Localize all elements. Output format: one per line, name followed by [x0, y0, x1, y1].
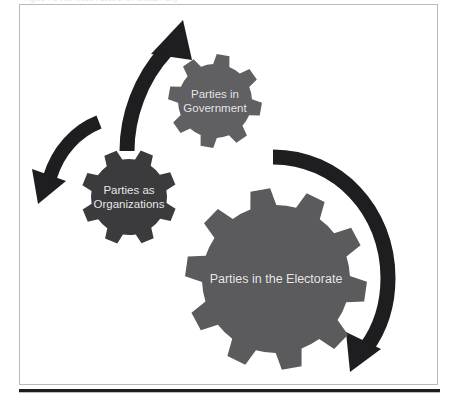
gears-svg [20, 5, 439, 386]
page-bottom-rule-shadow [19, 392, 440, 393]
diagram-stage: Parties in Government Parties as Organiz… [20, 5, 439, 386]
figure-page: Figure 7.1 The Three Faces of a Politica… [0, 0, 453, 406]
gear-parties-as-organizations [82, 150, 175, 243]
figure-border-box: Parties in Government Parties as Organiz… [19, 4, 438, 385]
gear-parties-in-government [168, 54, 262, 148]
gear-parties-in-the-electorate [185, 188, 367, 370]
